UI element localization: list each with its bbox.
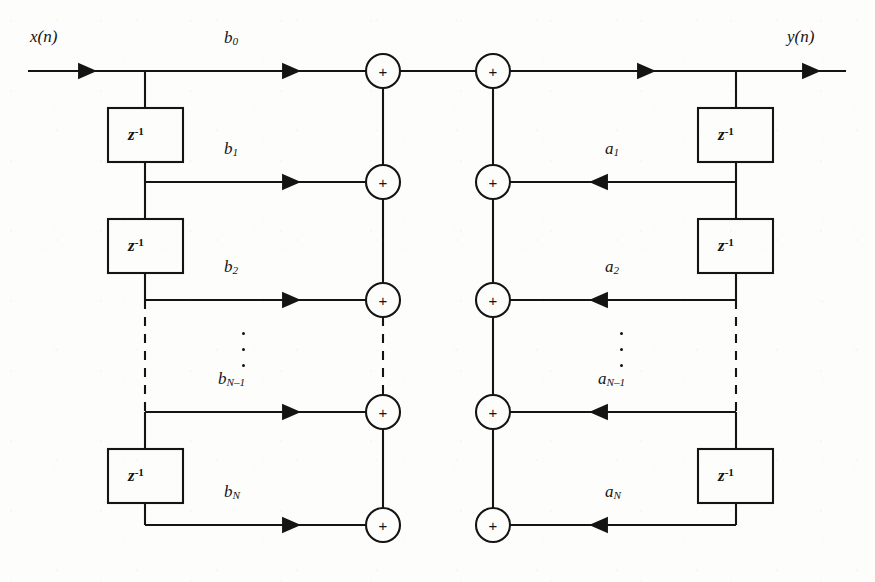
delay-symbol-fb-n: z-1 [718, 467, 734, 484]
ff-delay-block-n [108, 449, 183, 503]
delay-symbol-ff-2: z-1 [128, 237, 144, 254]
adder-plus-right-4: + [489, 404, 498, 421]
fb-delay-block-n [698, 449, 773, 503]
coefficient-label-a1: a1 [605, 140, 619, 159]
adder-plus-right-1: + [489, 63, 498, 80]
output-label: y(n) [787, 28, 814, 45]
coefficient-label-an: aN [605, 483, 621, 502]
adder-plus-right-5: + [489, 517, 498, 534]
fb-delay-block-2 [698, 219, 773, 273]
adder-plus-left-2: + [379, 174, 388, 191]
ff-delay-block-1 [108, 108, 183, 162]
coefficient-label-b0: b0 [224, 29, 238, 48]
adder-plus-right-2: + [489, 174, 498, 191]
coefficient-label-bn: bN [224, 483, 240, 502]
coefficient-label-an1: aN–1 [598, 370, 625, 389]
adder-plus-left-5: + [379, 517, 388, 534]
adder-plus-right-3: + [489, 292, 498, 309]
delay-symbol-ff-n: z-1 [128, 467, 144, 484]
ff-delay-block-2 [108, 219, 183, 273]
signal-flow-graph [0, 0, 875, 582]
figure-canvas: x(n) y(n) b0 b1 b2 bN–1 bN a1 a2 aN–1 aN… [0, 0, 875, 582]
adder-plus-left-3: + [379, 292, 388, 309]
adder-plus-left-1: + [379, 63, 388, 80]
delay-symbol-fb-1: z-1 [718, 126, 734, 143]
delay-symbol-ff-1: z-1 [128, 126, 144, 143]
delay-symbol-fb-2: z-1 [718, 237, 734, 254]
adder-plus-left-4: + [379, 404, 388, 421]
input-label: x(n) [30, 28, 57, 45]
coefficient-label-a2: a2 [605, 258, 619, 277]
fb-delay-block-1 [698, 108, 773, 162]
coefficient-label-b1: b1 [224, 140, 238, 159]
coefficient-label-b2: b2 [224, 258, 238, 277]
coefficient-label-bn1: bN–1 [218, 370, 245, 389]
